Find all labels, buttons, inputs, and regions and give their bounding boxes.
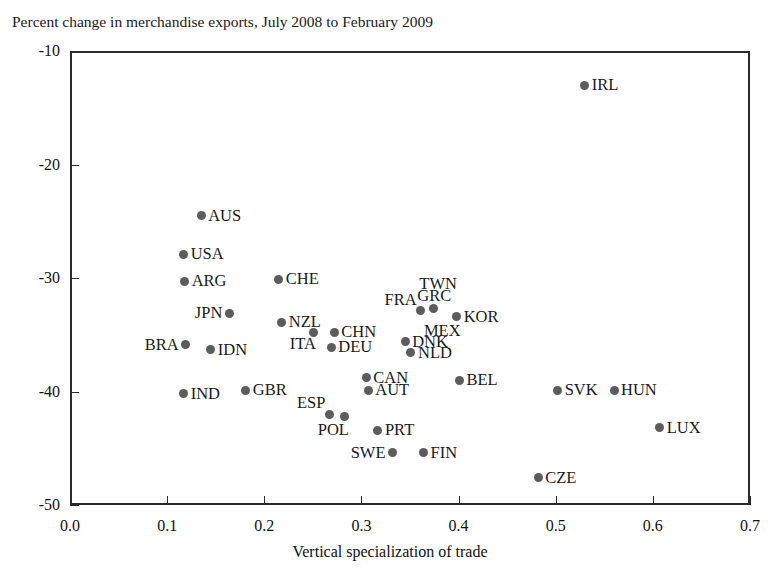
chart-title: Percent change in merchandise exports, J… bbox=[12, 14, 433, 30]
data-point-label: CHE bbox=[286, 271, 319, 288]
data-point-label: BEL bbox=[467, 372, 498, 389]
data-point-marker bbox=[416, 306, 425, 315]
data-point-label: AUT bbox=[375, 382, 409, 399]
data-point-marker bbox=[225, 309, 234, 318]
data-point-marker bbox=[206, 345, 215, 354]
data-point-label: CZE bbox=[545, 470, 576, 487]
data-point-marker bbox=[388, 448, 397, 457]
data-point-label: PRT bbox=[385, 422, 414, 439]
y-tick-mark bbox=[70, 165, 79, 166]
data-point-label: TWN bbox=[419, 275, 457, 292]
y-axis-tick-labels: -10-20-30-40-50 bbox=[8, 51, 60, 505]
x-tick-mark bbox=[556, 496, 557, 505]
y-tick-mark bbox=[70, 505, 79, 506]
data-point-marker bbox=[455, 376, 464, 385]
data-point-marker bbox=[429, 304, 438, 313]
y-tick-label: -40 bbox=[39, 383, 60, 401]
data-point-marker bbox=[277, 318, 286, 327]
x-tick-mark bbox=[70, 496, 71, 505]
data-point-label: POL bbox=[318, 422, 349, 439]
x-tick-label: 0.7 bbox=[740, 517, 760, 535]
data-point-marker bbox=[364, 386, 373, 395]
x-tick-label: 0.6 bbox=[643, 517, 663, 535]
data-point-label: KOR bbox=[464, 308, 499, 325]
y-tick-label: -10 bbox=[39, 42, 60, 60]
data-point-label: DEU bbox=[338, 339, 372, 356]
y-tick-label: -50 bbox=[39, 496, 60, 514]
data-point-marker bbox=[241, 386, 250, 395]
x-tick-label: 0.0 bbox=[60, 517, 80, 535]
x-tick-mark bbox=[361, 496, 362, 505]
data-point-marker bbox=[655, 423, 664, 432]
x-tick-label: 0.2 bbox=[254, 517, 274, 535]
data-point-marker bbox=[362, 373, 371, 382]
data-point-marker bbox=[180, 277, 189, 286]
x-tick-label: 0.1 bbox=[157, 517, 177, 535]
data-point-marker bbox=[553, 386, 562, 395]
data-point-label: SWE bbox=[351, 445, 386, 462]
data-point-marker bbox=[419, 448, 428, 457]
data-point-marker bbox=[330, 328, 339, 337]
data-point-marker bbox=[327, 343, 336, 352]
data-point-marker bbox=[610, 386, 619, 395]
plot-area: IRLAUSUSAARGCHEJPNNZLITABRAIDNFRAGRCKORT… bbox=[70, 51, 750, 505]
data-point-label: IDN bbox=[218, 341, 247, 358]
data-point-marker bbox=[325, 410, 334, 419]
data-point-label: GBR bbox=[253, 382, 287, 399]
x-tick-mark bbox=[459, 496, 460, 505]
y-tick-label: -30 bbox=[39, 269, 60, 287]
data-point-label: USA bbox=[191, 246, 224, 263]
data-point-label: ITA bbox=[290, 336, 316, 353]
x-tick-label: 0.4 bbox=[449, 517, 469, 535]
data-point-label: NLD bbox=[418, 345, 452, 362]
data-point-label: FRA bbox=[385, 292, 417, 309]
y-tick-label: -20 bbox=[39, 156, 60, 174]
data-point-marker bbox=[197, 211, 206, 220]
scatter-chart-figure: Percent change in merchandise exports, J… bbox=[0, 0, 780, 586]
y-tick-mark bbox=[70, 392, 79, 393]
data-point-marker bbox=[401, 337, 410, 346]
data-point-marker bbox=[534, 473, 543, 482]
data-point-label: ARG bbox=[192, 273, 227, 290]
data-point-label: JPN bbox=[195, 305, 223, 322]
x-tick-mark bbox=[264, 496, 265, 505]
data-point-label: FIN bbox=[431, 445, 458, 462]
data-point-label: ESP bbox=[297, 395, 325, 412]
x-tick-label: 0.5 bbox=[546, 517, 566, 535]
x-axis-tick-labels: 0.00.10.20.30.40.50.60.7 bbox=[70, 517, 750, 539]
data-point-label: HUN bbox=[621, 382, 657, 399]
data-point-marker bbox=[406, 348, 415, 357]
x-tick-mark bbox=[750, 496, 751, 505]
x-tick-mark bbox=[653, 496, 654, 505]
data-point-marker bbox=[274, 275, 283, 284]
data-point-marker bbox=[580, 81, 589, 90]
data-point-marker bbox=[181, 340, 190, 349]
data-point-label: SVK bbox=[565, 382, 598, 399]
data-point-marker bbox=[373, 426, 382, 435]
data-point-label: IRL bbox=[592, 77, 619, 94]
data-point-label: IND bbox=[191, 386, 220, 403]
data-point-label: BRA bbox=[145, 337, 179, 354]
y-tick-mark bbox=[70, 278, 79, 279]
data-point-label: AUS bbox=[208, 207, 241, 224]
x-axis-title: Vertical specialization of trade bbox=[0, 543, 780, 561]
y-tick-mark bbox=[70, 51, 79, 52]
x-tick-mark bbox=[167, 496, 168, 505]
data-point-label: LUX bbox=[667, 420, 701, 437]
data-point-marker bbox=[179, 389, 188, 398]
data-point-marker bbox=[179, 250, 188, 259]
x-tick-label: 0.3 bbox=[351, 517, 371, 535]
